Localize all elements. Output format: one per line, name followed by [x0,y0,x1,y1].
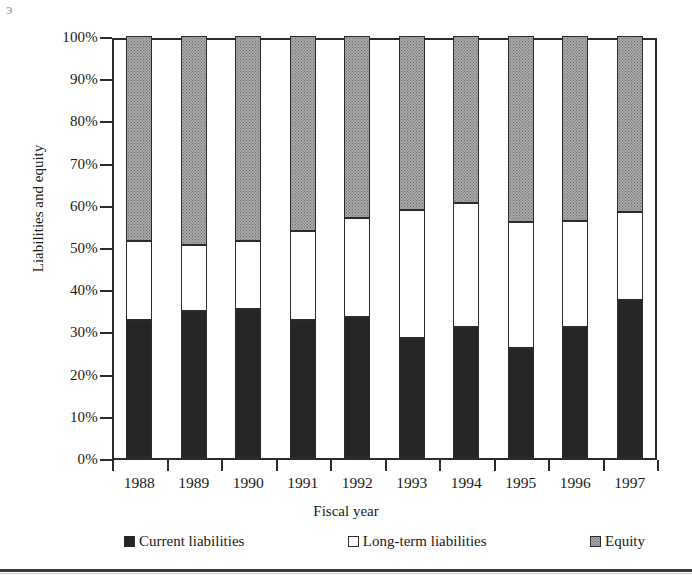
y-axis-tick-label: 80% [40,114,98,129]
x-axis-tick-label: 1991 [273,474,333,492]
y-axis-tick-label: 50% [40,241,98,256]
bar-segment-long-term-liabilities [399,210,425,338]
x-axis-tick-label: 1997 [600,474,660,492]
y-axis-tick-label: 20% [40,368,98,383]
x-axis-tick-label: 1996 [545,474,605,492]
x-axis-tick-label: 1989 [164,474,224,492]
stacked-bar-chart-figure: э Liabilities and equity 0%10%20%30%40%5… [0,0,692,588]
footer-rule [0,569,692,572]
y-axis-tick-label: 10% [40,410,98,425]
bar-segment-current-liabilities [399,338,425,458]
y-axis-tick-mark [100,290,112,292]
bars-layer [114,40,655,458]
bar-column [181,40,207,458]
bar-segment-equity [453,36,479,203]
y-axis-tick-mark [100,375,112,377]
bar-segment-current-liabilities [453,327,479,458]
plot-area [112,38,657,460]
x-axis-tick-mark [330,460,332,471]
bar-segment-current-liabilities [617,300,643,458]
bar-segment-current-liabilities [181,311,207,458]
legend-item[interactable]: Current liabilities [124,533,244,550]
bar-column [235,40,261,458]
x-axis-tick-label: 1994 [436,474,496,492]
scan-artifact-mark: э [6,2,22,16]
outlined-white-square-icon [348,536,359,547]
x-axis-tick-label: 1988 [109,474,169,492]
bar-segment-current-liabilities [508,348,534,458]
legend-item[interactable]: Long-term liabilities [348,533,487,550]
bar-column [344,40,370,458]
y-axis-tick-label: 30% [40,325,98,340]
bar-column [453,40,479,458]
y-axis-tick-mark [100,164,112,166]
stippled-gray-square-icon [590,536,601,547]
x-axis-tick-mark [603,460,605,471]
y-axis-tick-mark [100,121,112,123]
x-axis-tick-label: 1990 [218,474,278,492]
x-axis-tick-mark [221,460,223,471]
y-axis-tick-mark [100,206,112,208]
chart-legend: Current liabilitiesLong-term liabilities… [112,530,657,552]
bar-segment-current-liabilities [126,320,152,458]
legend-item-label: Current liabilities [139,533,244,550]
bar-segment-long-term-liabilities [508,222,534,348]
bar-segment-long-term-liabilities [181,245,207,311]
y-axis-tick-label: 90% [40,72,98,87]
bar-segment-equity [344,36,370,218]
y-axis-tick-label: 40% [40,283,98,298]
bar-segment-equity [290,36,316,231]
bar-segment-current-liabilities [562,327,588,458]
x-axis-tick-mark [494,460,496,471]
x-axis-tick-mark [439,460,441,471]
bar-segment-current-liabilities [344,317,370,458]
bar-segment-equity [617,36,643,212]
bar-segment-equity [562,36,588,221]
y-axis-labels: 0%10%20%30%40%50%60%70%80%90%100% [30,0,98,588]
bar-segment-equity [235,36,261,241]
bar-column [126,40,152,458]
x-axis-title: Fiscal year [0,503,692,520]
y-axis-tick-mark [100,37,112,39]
legend-item[interactable]: Equity [590,533,645,550]
y-axis-tick-mark [100,332,112,334]
x-axis-tick-mark [657,460,659,471]
y-axis-tick-mark [100,417,112,419]
filled-black-square-icon [124,536,135,547]
bar-segment-long-term-liabilities [617,212,643,300]
y-axis-tick-mark [100,459,112,461]
y-axis-tick-mark [100,79,112,81]
bar-column [562,40,588,458]
bar-segment-long-term-liabilities [126,241,152,320]
x-axis-tick-mark [276,460,278,471]
bar-segment-long-term-liabilities [562,221,588,327]
bar-segment-current-liabilities [235,309,261,458]
legend-item-label: Long-term liabilities [363,533,487,550]
y-axis-tick-label: 60% [40,199,98,214]
bar-column [508,40,534,458]
legend-item-label: Equity [605,533,645,550]
bar-column [617,40,643,458]
x-axis-tick-mark [112,460,114,471]
bar-column [290,40,316,458]
bar-segment-long-term-liabilities [344,218,370,317]
x-axis-tick-label: 1995 [491,474,551,492]
x-axis-tick-mark [385,460,387,471]
bar-segment-equity [126,36,152,241]
bar-segment-long-term-liabilities [235,241,261,309]
footer-rule-shadow [0,573,692,574]
y-axis-tick-mark [100,248,112,250]
x-axis-tick-label: 1993 [382,474,442,492]
y-axis-tick-label: 70% [40,157,98,172]
bar-segment-current-liabilities [290,320,316,458]
bar-segment-long-term-liabilities [453,203,479,327]
y-axis-tick-label: 100% [40,30,98,45]
bar-segment-equity [508,36,534,222]
bar-segment-long-term-liabilities [290,231,316,320]
x-axis-tick-label: 1992 [327,474,387,492]
bar-segment-equity [181,36,207,245]
bar-column [399,40,425,458]
y-axis-tick-label: 0% [40,452,98,467]
x-axis-tick-mark [548,460,550,471]
x-axis-tick-mark [167,460,169,471]
